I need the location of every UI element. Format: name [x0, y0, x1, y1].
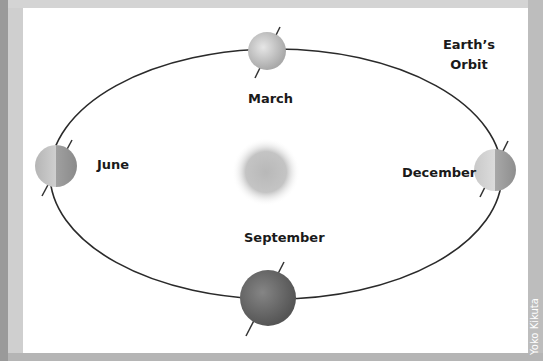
label-june: June — [97, 157, 129, 172]
photo-credit: Yoko Kikuta — [529, 298, 540, 355]
earth-september — [240, 262, 296, 336]
title-line-1: Earth’s — [434, 35, 504, 55]
earth-march — [248, 27, 286, 78]
label-march: March — [248, 91, 293, 106]
sun — [232, 138, 300, 206]
earth-december — [474, 141, 516, 197]
label-september: September — [244, 230, 325, 245]
earth-june — [35, 140, 77, 196]
label-december: December — [402, 165, 476, 180]
title-line-2: Orbit — [434, 55, 504, 75]
diagram-title: Earth’s Orbit — [434, 35, 504, 75]
